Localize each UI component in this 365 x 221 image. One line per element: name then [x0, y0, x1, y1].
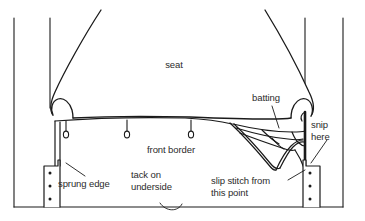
leg-tack-dot — [309, 185, 312, 188]
tack-pin-group — [63, 120, 193, 138]
leader-sprung-edge — [66, 163, 85, 176]
tack-pin — [63, 121, 68, 138]
tack-pin — [124, 120, 129, 138]
right-leg-outline — [303, 160, 320, 207]
drape-peak-right — [276, 140, 303, 170]
label-front-border: front border — [138, 144, 204, 156]
label-batting: batting — [240, 92, 292, 104]
front-border-top-edge — [55, 118, 232, 124]
front-border-panel — [55, 118, 232, 168]
right-leg-block — [303, 160, 320, 207]
label-tack-on-underside: tack on underside — [131, 169, 191, 192]
leg-tack-dot — [309, 172, 312, 175]
tack-pin — [188, 120, 193, 138]
seat-left-corner-tuck — [52, 99, 73, 118]
batting-drape-folds — [230, 123, 305, 170]
label-slip-stitch-from-this-point: slip stitch from this point — [211, 175, 303, 198]
leader-tack-underside — [160, 203, 182, 210]
leg-tack-dot — [49, 198, 52, 201]
leg-tack-dot — [309, 198, 312, 201]
label-sprung-edge: sprung edge — [58, 178, 124, 190]
leader-snip — [311, 140, 327, 163]
leader-batting — [272, 106, 279, 128]
upholstery-diagram: seat batting snip here front border spru… — [0, 0, 365, 221]
label-snip-here: snip here — [311, 119, 351, 142]
label-seat: seat — [152, 59, 196, 71]
leg-tack-dot — [49, 185, 52, 188]
leg-tack-dot — [49, 172, 52, 175]
